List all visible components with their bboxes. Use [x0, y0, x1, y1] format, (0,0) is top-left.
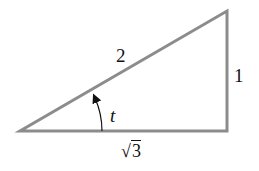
angle-arc-arrow — [95, 98, 102, 131]
triangle-diagram: 2 1 t √3 — [0, 0, 259, 171]
radicand: 3 — [131, 140, 141, 161]
triangle — [20, 11, 227, 131]
opposite-side-label: 1 — [234, 66, 244, 85]
sqrt-symbol: √ — [121, 141, 131, 161]
hypotenuse-label: 2 — [116, 46, 126, 65]
angle-label: t — [110, 106, 115, 125]
adjacent-side-label: √3 — [121, 142, 141, 160]
